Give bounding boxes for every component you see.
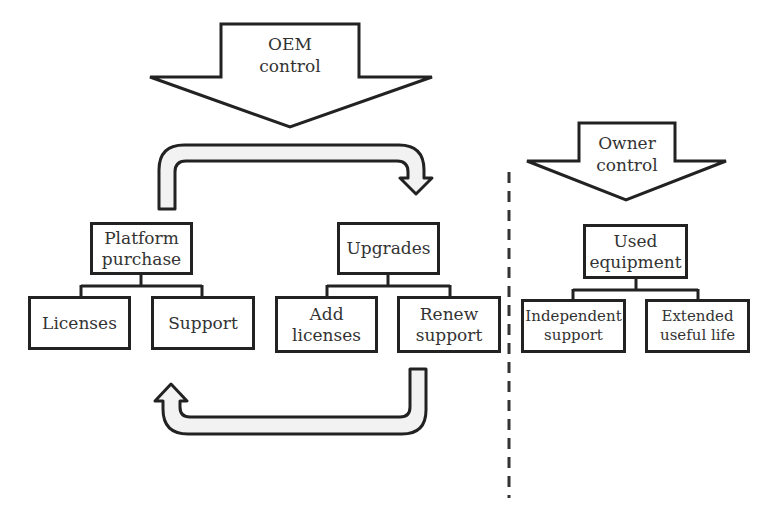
add-licenses-box: Add licenses	[275, 296, 378, 353]
upgrades-box: Upgrades	[337, 222, 440, 275]
extended-useful-life-box: Extended useful life	[645, 299, 750, 353]
cycle-arrow-return	[155, 369, 426, 434]
support-box: Support	[151, 296, 255, 350]
owner-control-label: Owner control	[579, 132, 675, 176]
independent-support-box: Independent support	[521, 299, 626, 353]
licenses-box: Licenses	[28, 296, 131, 350]
renew-support-box: Renew support	[397, 296, 501, 353]
oem-control-label: OEM control	[221, 33, 359, 77]
used-equipment-connector	[573, 278, 698, 300]
platform-purchase-box: Platform purchase	[90, 222, 193, 275]
platform-connector	[81, 274, 202, 297]
used-equipment-box: Used equipment	[583, 224, 688, 279]
cycle-arrow-forward	[159, 145, 432, 209]
upgrades-connector	[327, 274, 450, 297]
